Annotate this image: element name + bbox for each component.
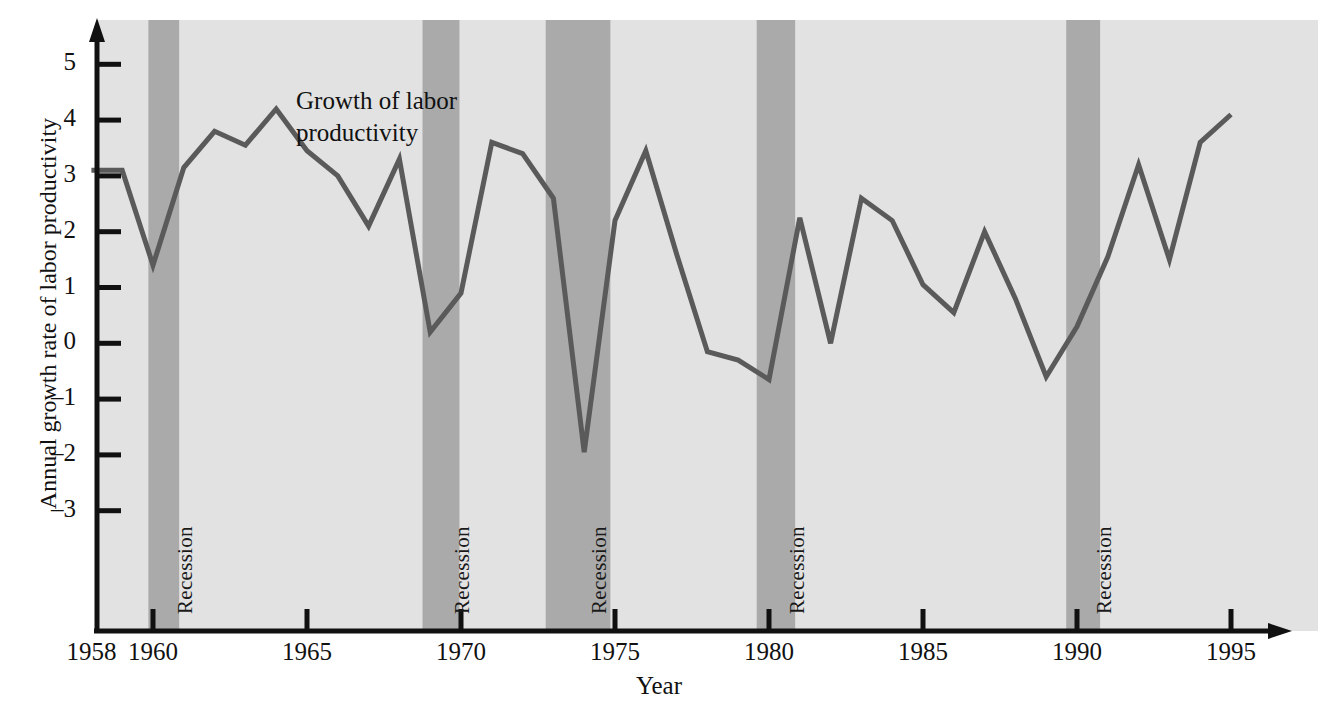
recession-band-label: Recession <box>173 526 198 614</box>
x-tick-label: 1995 <box>1171 638 1291 666</box>
x-tick-label: 1980 <box>709 638 829 666</box>
x-tick-label: 1960 <box>93 638 213 666</box>
x-tick-label: 1990 <box>1017 638 1137 666</box>
series-annotation-line2: productivity <box>296 117 457 149</box>
series-annotation: Growth of labor productivity <box>296 85 457 149</box>
x-tick-label: 1970 <box>401 638 521 666</box>
recession-bands-group <box>148 20 1100 631</box>
recession-band-label: Recession <box>450 526 475 614</box>
data-line-group <box>91 109 1231 452</box>
recession-band-label: Recession <box>1092 526 1117 614</box>
recession-band-label: Recession <box>785 526 810 614</box>
x-axis-title: Year <box>0 672 1318 700</box>
ticks-group <box>97 64 1231 631</box>
y-tick-label: 5 <box>36 48 76 76</box>
productivity-growth-line <box>91 109 1231 452</box>
recession-band-label: Recession <box>587 526 612 614</box>
y-axis-arrowhead <box>89 18 105 42</box>
x-axis-arrowhead <box>1268 623 1292 639</box>
x-tick-label: 1975 <box>555 638 675 666</box>
x-tick-label: 1965 <box>247 638 367 666</box>
series-annotation-line1: Growth of labor <box>296 85 457 117</box>
y-axis-title: Annual growth rate of labor productivity <box>35 114 62 514</box>
labor-productivity-figure: 543210–1–2–3 195819601965197019751980198… <box>0 0 1318 707</box>
x-tick-label: 1985 <box>863 638 983 666</box>
